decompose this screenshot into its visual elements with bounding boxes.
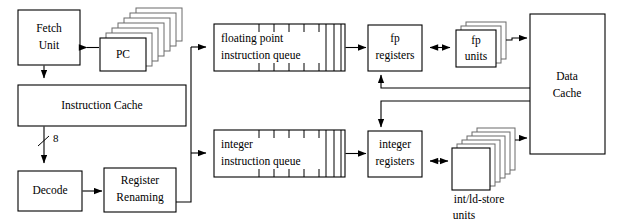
fp-units-label-line1: fp <box>471 34 481 47</box>
fetch-unit-block: Fetch Unit <box>18 10 80 65</box>
int-ld-store-units-label-line2: units <box>453 209 476 221</box>
data-cache-label-line2: Cache <box>553 87 582 99</box>
bus-width-label: 8 <box>53 132 59 144</box>
fp-instruction-queue-block: floating point instruction queue <box>214 24 345 71</box>
integer-registers-block: integer registers <box>368 131 422 177</box>
edge-int-ld-store-units-to-data-cache <box>515 138 527 140</box>
integer-queue-label-line2: instruction queue <box>221 155 301 168</box>
int-ld-store-units-block: int/ld-store units <box>452 128 515 221</box>
edge-icache-to-decode: 8 <box>38 127 59 164</box>
integer-registers-label-line2: registers <box>376 155 415 168</box>
integer-registers-label-line1: integer <box>379 138 411 151</box>
integer-queue-label-line1: integer <box>221 138 253 151</box>
data-cache-label-line1: Data <box>556 70 578 82</box>
fetch-unit-label-line2: Unit <box>39 39 60 51</box>
data-cache-block: Data Cache <box>530 14 605 154</box>
register-renaming-label-line2: Renaming <box>116 191 164 204</box>
register-renaming-block: Register Renaming <box>104 168 176 212</box>
register-renaming-label-line1: Register <box>121 174 159 187</box>
edge-data-cache-to-integer-registers <box>381 101 530 127</box>
architecture-diagram: PC Fetch Unit Instruction Cache 8 Decode <box>0 0 622 223</box>
int-ld-store-units-label-line1: int/ld-store <box>454 193 504 205</box>
decode-block: Decode <box>18 171 82 211</box>
pc-block: PC <box>100 8 182 71</box>
fp-units-label-line2: units <box>465 50 488 62</box>
fp-registers-block: fp registers <box>368 25 422 71</box>
fp-queue-label-line2: instruction queue <box>221 49 301 62</box>
instruction-cache-label: Instruction Cache <box>61 99 142 111</box>
fetch-unit-label-line1: Fetch <box>36 22 62 34</box>
instruction-cache-block: Instruction Cache <box>18 85 186 126</box>
fp-queue-label-line1: floating point <box>221 32 284 45</box>
decode-label: Decode <box>32 184 67 196</box>
edge-data-cache-to-fp-registers <box>381 75 530 88</box>
edge-fp-units-to-data-cache <box>506 38 527 40</box>
fp-units-block: fp units <box>456 22 506 67</box>
integer-instruction-queue-block: integer instruction queue <box>214 130 345 177</box>
diagram-canvas: PC Fetch Unit Instruction Cache 8 Decode <box>0 0 622 223</box>
fp-registers-label-line1: fp <box>390 32 400 45</box>
fp-registers-label-line2: registers <box>376 49 415 62</box>
pc-label: PC <box>116 48 130 60</box>
